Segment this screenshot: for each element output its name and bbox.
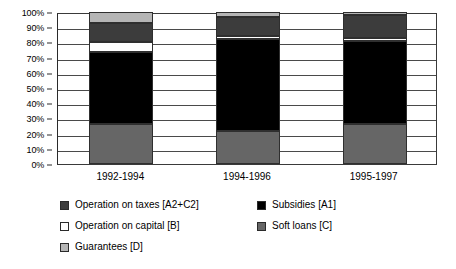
y-tick-mark: [47, 104, 52, 105]
bar-segment-operation-on-taxes[interactable]: [216, 17, 280, 37]
legend-label-operation-on-taxes: Operation on taxes [A2+C2]: [75, 199, 199, 211]
legend-item-operation-on-taxes[interactable]: Operation on taxes [A2+C2]: [60, 199, 199, 211]
y-tick-mark: [47, 58, 52, 59]
y-tick-label: 50%: [27, 84, 44, 94]
y-tick-label: 100%: [22, 8, 44, 18]
bar-segment-operation-on-capital[interactable]: [89, 42, 153, 51]
plot-area: [57, 13, 437, 165]
bar-segment-operation-on-taxes[interactable]: [89, 23, 153, 43]
y-tick-mark: [47, 43, 52, 44]
legend-swatch-subsidies: [257, 201, 266, 210]
bar-segment-subsidies[interactable]: [343, 41, 407, 125]
y-tick-label: 20%: [27, 130, 44, 140]
y-tick-label: 70%: [27, 54, 44, 64]
y-axis: 0%10%20%30%40%50%60%70%80%90%100%: [0, 13, 52, 165]
bar-segment-soft-loans[interactable]: [343, 124, 407, 164]
y-tick-label: 80%: [27, 38, 44, 48]
y-tick-mark: [47, 13, 52, 14]
bar-1992-1994[interactable]: [89, 12, 153, 164]
y-tick-mark: [47, 89, 52, 90]
legend-item-subsidies[interactable]: Subsidies [A1]: [257, 199, 336, 211]
y-tick-label: 0%: [31, 160, 44, 170]
bar-segment-subsidies[interactable]: [89, 52, 153, 125]
legend-label-operation-on-capital: Operation on capital [B]: [75, 220, 180, 232]
y-tick-mark: [47, 119, 52, 120]
y-tick-mark: [47, 134, 52, 135]
x-axis: 1992-19941994-19961995-1997: [57, 170, 437, 186]
legend-item-operation-on-capital[interactable]: Operation on capital [B]: [60, 220, 180, 232]
bar-segment-guarantees[interactable]: [343, 12, 407, 15]
y-tick-mark: [47, 165, 52, 166]
bar-1995-1997[interactable]: [343, 12, 407, 164]
bar-segment-operation-on-capital[interactable]: [216, 36, 280, 39]
bar-segment-operation-on-capital[interactable]: [343, 38, 407, 41]
bar-1994-1996[interactable]: [216, 12, 280, 164]
legend-swatch-operation-on-capital: [60, 222, 69, 231]
y-tick-label: 90%: [27, 23, 44, 33]
x-tick-label: 1992-1994: [96, 170, 144, 183]
stacked-bar-chart: 0%10%20%30%40%50%60%70%80%90%100% 1992-1…: [0, 0, 456, 269]
y-tick-label: 10%: [27, 145, 44, 155]
y-tick-label: 30%: [27, 114, 44, 124]
bar-segment-subsidies[interactable]: [216, 39, 280, 130]
y-tick-label: 60%: [27, 69, 44, 79]
y-tick-mark: [47, 149, 52, 150]
y-tick-mark: [47, 73, 52, 74]
legend-item-guarantees[interactable]: Guarantees [D]: [60, 241, 143, 253]
bar-segment-soft-loans[interactable]: [89, 124, 153, 164]
legend-swatch-guarantees: [60, 243, 69, 252]
legend-label-guarantees: Guarantees [D]: [75, 241, 143, 253]
legend-label-subsidies: Subsidies [A1]: [272, 199, 336, 211]
legend-swatch-soft-loans: [257, 222, 266, 231]
legend-label-soft-loans: Soft loans [C]: [272, 220, 332, 232]
x-tick-label: 1994-1996: [223, 170, 271, 183]
y-tick-mark: [47, 28, 52, 29]
chart-legend: Operation on taxes [A2+C2] Subsidies [A1…: [60, 199, 450, 261]
legend-item-soft-loans[interactable]: Soft loans [C]: [257, 220, 332, 232]
bar-segment-operation-on-taxes[interactable]: [343, 15, 407, 38]
bar-segment-guarantees[interactable]: [89, 12, 153, 23]
bar-segment-soft-loans[interactable]: [216, 131, 280, 164]
bar-segment-guarantees[interactable]: [216, 12, 280, 17]
y-tick-label: 40%: [27, 99, 44, 109]
x-tick-label: 1995-1997: [350, 170, 398, 183]
legend-swatch-operation-on-taxes: [60, 201, 69, 210]
